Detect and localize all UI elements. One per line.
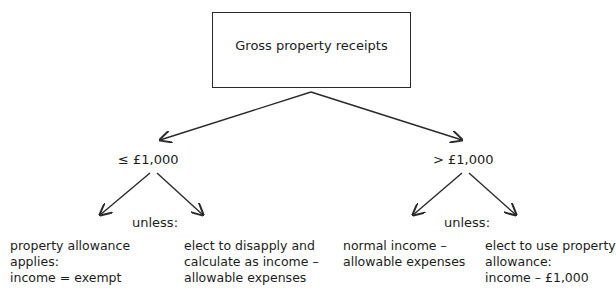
- root-label: Gross property receipts: [235, 38, 387, 53]
- connector-unless-right: unless:: [444, 215, 490, 230]
- arrow-gt1000-to-elect: [469, 173, 516, 215]
- arrow-le1000-to-exempt: [100, 173, 150, 215]
- outcome-property-allowance-exempt: property allowance applies: income = exe…: [10, 238, 130, 286]
- condition-gt-1000: > £1,000: [433, 152, 494, 167]
- arrow-le1000-to-disapply: [157, 173, 203, 215]
- condition-le-1000: ≤ £1,000: [118, 152, 179, 167]
- outcome-elect-use-allowance: elect to use property allowance: income …: [485, 238, 616, 286]
- arrow-root-to-gt1000: [311, 92, 462, 140]
- outcome-normal-income: normal income – allowable expenses: [343, 238, 465, 270]
- outcome-elect-disapply: elect to disapply and calculate as incom…: [184, 238, 319, 286]
- connector-unless-left: unless:: [132, 215, 178, 230]
- arrow-gt1000-to-normal: [413, 173, 462, 215]
- root-node: Gross property receipts: [212, 12, 411, 88]
- arrow-root-to-le1000: [160, 92, 311, 140]
